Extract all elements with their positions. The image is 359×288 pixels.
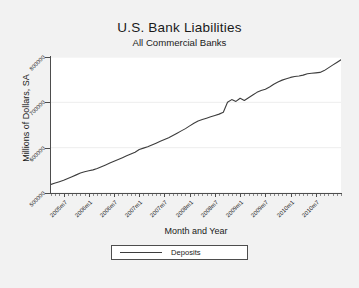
x-axis-minor-tick [194, 194, 195, 196]
x-axis-tick [316, 194, 317, 197]
x-axis-minor-tick [122, 194, 123, 196]
x-axis-minor-tick [55, 194, 56, 196]
x-axis-tick [291, 194, 292, 197]
legend-item-label: Deposits [171, 248, 201, 257]
x-axis-tick [240, 194, 241, 197]
x-axis-minor-tick [244, 194, 245, 196]
x-axis-minor-tick [177, 194, 178, 196]
x-axis-minor-tick [312, 194, 313, 196]
x-axis-tick [215, 194, 216, 197]
x-axis-minor-tick [261, 194, 262, 196]
x-axis-minor-tick [303, 194, 304, 196]
x-axis-minor-tick [127, 194, 128, 196]
x-axis-minor-tick [106, 194, 107, 196]
x-axis-tick [164, 194, 165, 197]
x-axis-minor-tick [324, 194, 325, 196]
x-axis-minor-tick [97, 194, 98, 196]
x-axis-minor-tick [80, 194, 81, 196]
x-axis-tick [265, 194, 266, 197]
x-axis-minor-tick [143, 194, 144, 196]
data-series-deposits [51, 57, 341, 193]
x-axis-minor-tick [211, 194, 212, 196]
x-axis-tick [114, 194, 115, 197]
x-axis-minor-tick [101, 194, 102, 196]
x-axis-minor-tick [131, 194, 132, 196]
x-axis-minor-tick [257, 194, 258, 196]
x-axis-tick [89, 194, 90, 197]
x-axis-tick [139, 194, 140, 197]
x-axis-minor-tick [135, 194, 136, 196]
x-axis-minor-tick [341, 194, 342, 196]
x-axis-minor-tick [51, 194, 52, 196]
x-axis-minor-tick [152, 194, 153, 196]
x-axis-minor-tick [286, 194, 287, 196]
x-axis-minor-tick [169, 194, 170, 196]
x-axis-minor-tick [307, 194, 308, 196]
x-axis-minor-tick [278, 194, 279, 196]
x-axis-minor-tick [274, 194, 275, 196]
x-axis-minor-tick [223, 194, 224, 196]
y-axis-title: Millions of Dollars, SA [21, 53, 31, 183]
x-axis-minor-tick [93, 194, 94, 196]
x-axis-minor-tick [185, 194, 186, 196]
x-axis-minor-tick [207, 194, 208, 196]
x-axis-minor-tick [181, 194, 182, 196]
chart-legend: Deposits [111, 245, 248, 260]
x-axis-minor-tick [59, 194, 60, 196]
x-axis-minor-tick [148, 194, 149, 196]
x-axis-minor-tick [85, 194, 86, 196]
chart-figure: U.S. Bank Liabilities All Commercial Ban… [0, 0, 359, 288]
x-axis-minor-tick [249, 194, 250, 196]
y-axis-line [50, 56, 51, 194]
x-axis-title: Month and Year [51, 226, 341, 236]
x-axis-minor-tick [337, 194, 338, 196]
x-axis-minor-tick [173, 194, 174, 196]
x-axis-minor-tick [198, 194, 199, 196]
x-axis-minor-tick [333, 194, 334, 196]
x-axis-minor-tick [253, 194, 254, 196]
x-axis-tick [190, 194, 191, 197]
x-axis-minor-tick [328, 194, 329, 196]
x-axis-minor-tick [76, 194, 77, 196]
x-axis-minor-tick [232, 194, 233, 196]
x-axis-minor-tick [110, 194, 111, 196]
x-axis-minor-tick [270, 194, 271, 196]
x-axis-minor-tick [228, 194, 229, 196]
x-axis-minor-tick [299, 194, 300, 196]
x-axis-minor-tick [320, 194, 321, 196]
x-axis-minor-tick [282, 194, 283, 196]
legend-line-icon [120, 245, 162, 260]
x-axis-minor-tick [295, 194, 296, 196]
x-axis-tick [64, 194, 65, 197]
x-axis-minor-tick [68, 194, 69, 196]
x-axis-minor-tick [72, 194, 73, 196]
x-axis-minor-tick [156, 194, 157, 196]
chart-title: U.S. Bank Liabilities [0, 20, 359, 35]
x-axis-minor-tick [236, 194, 237, 196]
x-axis-minor-tick [160, 194, 161, 196]
plot-area [51, 57, 341, 193]
x-axis-minor-tick [202, 194, 203, 196]
x-axis-minor-tick [219, 194, 220, 196]
x-axis-minor-tick [118, 194, 119, 196]
chart-subtitle: All Commercial Banks [0, 37, 359, 48]
